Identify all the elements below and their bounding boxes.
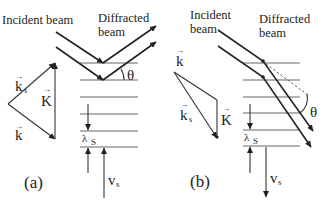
theta-label-a: θ: [127, 67, 134, 83]
velocity-label-b: v: [270, 170, 278, 186]
ks-subscript-b: s: [189, 115, 192, 124]
panel-b: Incident beam Diffracted beam θ: [174, 8, 317, 197]
diffracted-beam-label-a-line2: beam: [98, 25, 125, 39]
panel-a: Incident beam Diffracted beam θ: [2, 11, 156, 198]
k-vector-label-b: k: [176, 53, 184, 69]
incident-beam-label-a: Incident beam: [2, 13, 73, 27]
lambda-subscript-a: S: [91, 137, 96, 147]
K-vector-label-b: K: [221, 112, 232, 128]
incident-beam-label-b-line1: Incident: [190, 8, 231, 22]
lambda-label-b: λ: [244, 131, 250, 143]
K-vector-label-a: K: [41, 93, 52, 109]
lambda-label-a: λ: [82, 132, 88, 144]
ks-vector-label-a: k: [15, 78, 23, 94]
ks-subscript-a: s: [24, 86, 27, 95]
panel-label-b: (b): [190, 172, 210, 191]
theta-label-b: θ: [310, 104, 317, 120]
theta-arc-b: [300, 94, 308, 113]
lambda-subscript-b: S: [253, 136, 258, 146]
panel-label-a: (a): [24, 173, 43, 192]
diffracted-beam-label-a-line1: Diffracted: [98, 11, 150, 25]
theta-arc-a: [121, 69, 124, 80]
velocity-label-a: v: [108, 172, 116, 188]
velocity-subscript-b: s: [278, 177, 282, 187]
diffracted-beam-label-b-line1: Diffracted: [259, 12, 311, 26]
incident-beam-label-b-line2: beam: [190, 22, 217, 36]
diffracted-beam-label-b-line2: beam: [259, 26, 286, 40]
wavefront-planes-b: [243, 63, 300, 146]
diffraction-diagram: Incident beam Diffracted beam θ: [0, 0, 326, 208]
ks-vector-label-b: k: [180, 107, 188, 123]
k-vector-label-a: k: [15, 127, 23, 143]
incident-beam-rays-a: [56, 32, 103, 80]
velocity-subscript-a: s: [116, 179, 120, 189]
